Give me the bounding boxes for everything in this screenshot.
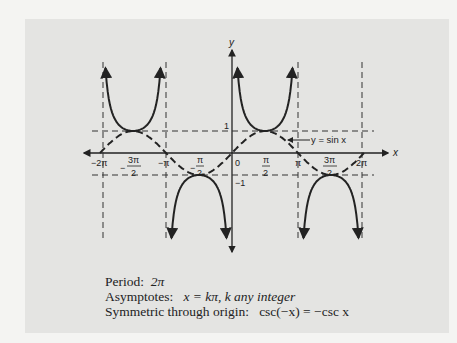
tick-pi-over-2: π 2 xyxy=(262,155,270,178)
sin-label: y = sin x xyxy=(311,134,346,145)
svg-text:2: 2 xyxy=(263,168,268,178)
tick-pi: π xyxy=(295,158,301,168)
period-line: Period: 2π xyxy=(105,274,349,289)
x-axis-label: x xyxy=(392,147,399,158)
svg-text:2: 2 xyxy=(131,168,136,178)
svg-text:−: − xyxy=(190,163,195,173)
asymptotes-line: Asymptotes: x = kπ, k any integer xyxy=(105,289,349,304)
svg-text:2: 2 xyxy=(327,168,332,178)
svg-text:3π: 3π xyxy=(324,155,335,165)
svg-text:π: π xyxy=(197,155,203,165)
svg-text:2: 2 xyxy=(197,168,202,178)
svg-text:−: − xyxy=(120,163,125,173)
tick-neg-two-pi: −2π xyxy=(91,158,107,168)
y-axis-label: y xyxy=(228,37,235,48)
tick-minus-one: −1 xyxy=(235,178,245,188)
properties-notes: Period: 2π Asymptotes: x = kπ, k any int… xyxy=(105,274,349,319)
svg-text:π: π xyxy=(263,155,269,165)
symmetry-line: Symmetric through origin: csc(−x) = −csc… xyxy=(105,304,349,319)
tick-one: 1 xyxy=(224,121,229,131)
svg-text:3π: 3π xyxy=(128,155,139,165)
tick-two-pi: 2π xyxy=(356,158,367,168)
tick-neg-pi: −π xyxy=(158,158,169,168)
tick-zero: 0 xyxy=(235,158,240,168)
